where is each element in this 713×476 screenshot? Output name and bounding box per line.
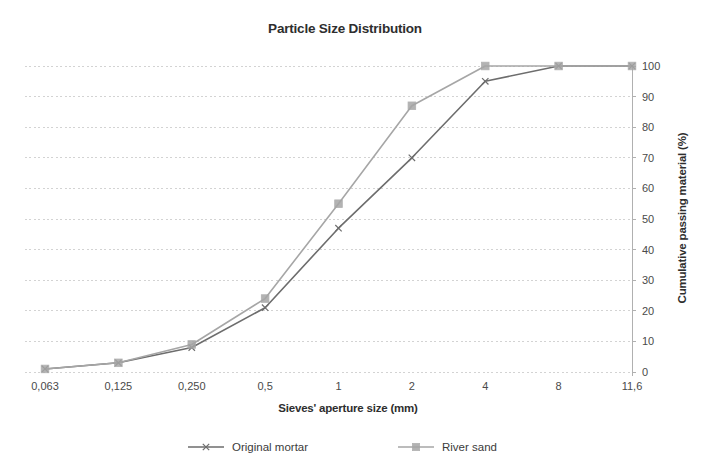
y-axis-tick-label: 90 <box>642 91 654 103</box>
x-axis-tick-label: 0,5 <box>257 380 272 392</box>
legend-item-river-sand[interactable]: River sand <box>398 441 497 453</box>
y-axis-tick-label: 30 <box>642 274 654 286</box>
y-axis-tick-label: 40 <box>642 244 654 256</box>
series-markers-group <box>41 62 636 373</box>
y-axis-tick-label: 60 <box>642 182 654 194</box>
data-point-marker <box>628 62 636 70</box>
data-point-marker <box>41 365 49 373</box>
gridlines-group <box>25 66 632 372</box>
y-axis-tick-label: 50 <box>642 213 654 225</box>
chart-legend: Original mortarRiver sand <box>188 441 497 453</box>
x-axis-tick-label: 8 <box>556 380 562 392</box>
y-axis-tick-label: 0 <box>642 366 648 378</box>
y-axis-title: Cumulative passing material (%) <box>676 132 688 303</box>
data-point-marker <box>481 62 489 70</box>
y-axis-tick-label: 10 <box>642 335 654 347</box>
x-axis-tick-label: 0,063 <box>31 380 59 392</box>
data-point-marker <box>335 200 343 208</box>
x-axis-tick-label: 0,125 <box>105 380 133 392</box>
particle-size-distribution-chart: Particle Size Distribution 0102030405060… <box>0 0 713 476</box>
x-axis-tick-label: 0,250 <box>178 380 206 392</box>
y-axis-tick-label: 20 <box>642 305 654 317</box>
x-axis-tick-label: 11,6 <box>622 380 643 392</box>
chart-title: Particle Size Distribution <box>268 21 422 36</box>
chart-canvas: Particle Size Distribution 0102030405060… <box>0 0 713 476</box>
legend-label: Original mortar <box>232 441 308 453</box>
data-point-marker <box>261 295 269 303</box>
legend-item-original-mortar[interactable]: Original mortar <box>188 441 308 453</box>
legend-marker <box>412 443 419 450</box>
data-point-marker <box>408 102 416 110</box>
y-axis-tick-label: 100 <box>642 60 660 72</box>
data-point-marker <box>262 305 268 311</box>
x-axis-tick-labels: 0,0630,1250,2500,5124811,6 <box>31 380 642 392</box>
y-axis-tick-label: 80 <box>642 121 654 133</box>
y-axis-tick-labels: 0102030405060708090100 <box>642 60 660 378</box>
legend-label: River sand <box>442 441 497 453</box>
x-axis-tick-label: 1 <box>335 380 341 392</box>
series-line-river-sand <box>45 66 632 369</box>
series-lines-group <box>45 66 632 369</box>
y-axis-line-group <box>632 66 636 376</box>
x-axis-tick-label: 4 <box>482 380 488 392</box>
data-point-marker <box>188 341 196 349</box>
y-axis-tick-label: 70 <box>642 152 654 164</box>
data-point-marker <box>115 359 123 367</box>
data-point-marker <box>555 62 563 70</box>
x-axis-title: Sieves' aperture size (mm) <box>278 402 418 414</box>
data-point-marker <box>335 225 341 231</box>
x-axis-tick-label: 2 <box>409 380 415 392</box>
series-line-original-mortar <box>45 66 632 369</box>
